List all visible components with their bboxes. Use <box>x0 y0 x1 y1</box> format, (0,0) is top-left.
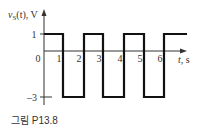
x-tick-label-6: 6 <box>158 53 163 64</box>
x-tick-label-3: 3 <box>97 53 102 64</box>
y-axis-arrow-icon <box>42 9 47 16</box>
y-tick-label-neg3: –3 <box>26 92 37 103</box>
x-axis-arrow-icon <box>180 49 187 54</box>
x-tick-label-5: 5 <box>138 53 143 64</box>
figure-caption: 그림 P13.8 <box>11 115 58 126</box>
origin-label: 0 <box>36 53 41 64</box>
square-wave-figure: vS(t), V 1 –3 0 1 2 3 4 5 6 t, s 그림 P13.… <box>0 0 201 138</box>
x-axis-label: t, s <box>178 54 190 65</box>
x-tick-label-4: 4 <box>118 53 123 64</box>
y-axis-label: vS(t), V <box>8 9 39 22</box>
x-tick-label-1: 1 <box>57 53 62 64</box>
x-tick-label-2: 2 <box>77 53 82 64</box>
y-tick-label-1: 1 <box>32 29 37 40</box>
square-wave-trace <box>44 34 187 97</box>
